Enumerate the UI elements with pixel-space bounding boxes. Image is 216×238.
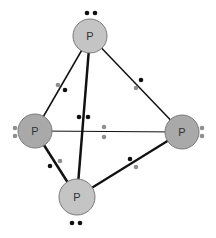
atom-top: P [73,19,107,53]
electron-dot-bond-top-left [56,83,61,88]
electron-dot-bond-top-right [139,78,144,83]
electron-dot-bond-top-bottom [86,115,91,120]
electron-dot-bond-left-right [102,125,107,130]
bond-top-right [90,36,182,132]
atom-label: P [31,125,38,137]
atom-bottom: P [59,179,95,215]
electron-dot-lone-pair-right [200,126,205,131]
atoms-layer: PPPP [18,19,199,215]
electron-dot-lone-pair-top [93,11,98,16]
electron-dot-bond-top-right [134,86,139,91]
electron-dot-bond-left-bottom [48,164,53,169]
bond-right-bottom [77,132,182,197]
p4-molecule-diagram: PPPP [0,0,216,238]
electron-dot-bond-top-left [63,88,68,93]
electron-dot-bond-left-right [102,135,107,140]
electron-dot-lone-pair-right [200,134,205,139]
bond-left-right [35,131,182,132]
atom-left: P [18,114,52,148]
bonds-layer [35,36,182,197]
electron-dot-bond-left-bottom [58,159,63,164]
atom-label: P [178,126,185,138]
electron-dot-lone-pair-bottom [78,221,83,226]
electron-dot-lone-pair-top [85,11,90,16]
electron-dot-lone-pair-bottom [70,221,75,226]
electron-dot-lone-pair-left [13,126,18,131]
electron-dot-bond-right-bottom [134,165,139,170]
electron-dot-bond-right-bottom [128,157,133,162]
electron-dot-bond-top-bottom [77,115,82,120]
atom-label: P [73,191,80,203]
electron-dot-lone-pair-left [13,134,18,139]
atom-right: P [165,115,199,149]
atom-label: P [86,30,93,42]
